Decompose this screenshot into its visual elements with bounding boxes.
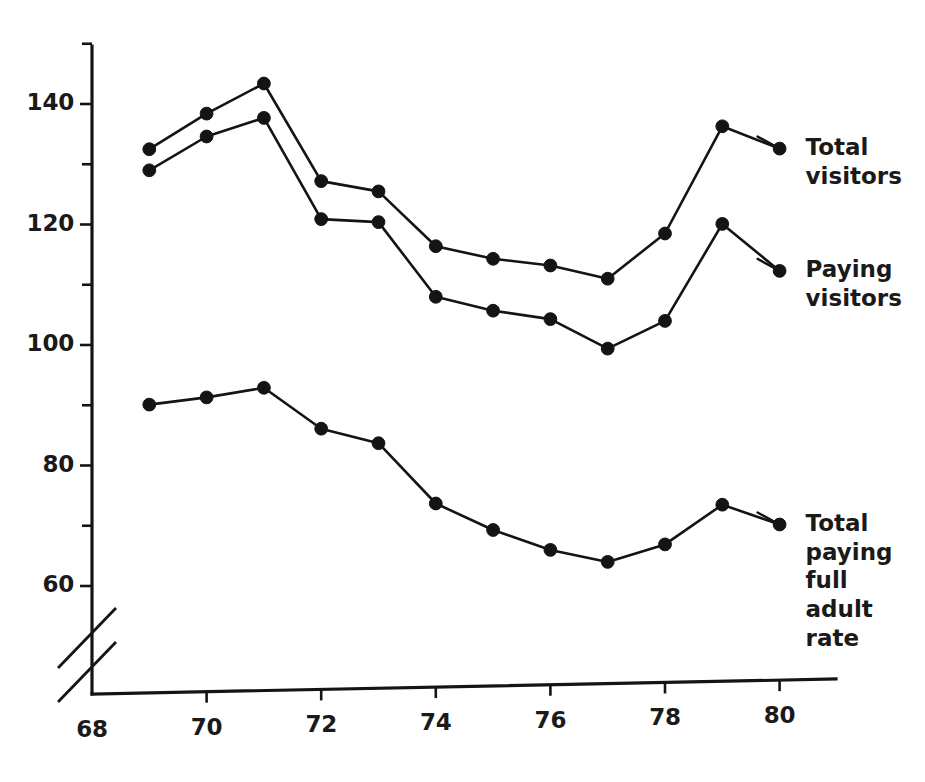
chart-container: 6080100120140 68707274767880 Total visit… — [0, 0, 925, 782]
data-point — [544, 313, 557, 326]
data-point — [544, 544, 557, 557]
series-label-leaders — [758, 137, 780, 525]
x-axis-label-72: 72 — [281, 711, 361, 737]
data-point — [487, 524, 500, 537]
data-point — [429, 240, 442, 253]
data-point — [315, 175, 328, 188]
data-point — [601, 556, 614, 569]
chart-plot-area — [0, 0, 925, 782]
y-axis-break-symbol — [58, 608, 116, 702]
data-series-group — [143, 77, 786, 568]
series-line-2 — [149, 118, 779, 349]
y-axis-label-140: 140 — [27, 89, 74, 115]
y-axis-label-120: 120 — [27, 210, 74, 236]
data-point — [544, 259, 557, 272]
data-point — [372, 185, 385, 198]
y-axis-label-60: 60 — [42, 571, 74, 597]
data-point — [372, 437, 385, 450]
axis-break-slash-1 — [58, 608, 116, 668]
x-axis-label-80: 80 — [740, 702, 820, 728]
data-point — [143, 164, 156, 177]
series-2 — [143, 112, 786, 356]
series-label-1: Total visitors — [806, 133, 902, 191]
series-line-3 — [149, 388, 779, 562]
x-axis-label-78: 78 — [625, 704, 705, 730]
series-label-3: Total paying full adult rate — [806, 509, 893, 654]
data-point — [659, 227, 672, 240]
data-point — [200, 391, 213, 404]
data-point — [601, 342, 614, 355]
axes-group — [80, 44, 836, 703]
data-point — [716, 498, 729, 511]
data-point — [315, 213, 328, 226]
data-point — [716, 218, 729, 231]
x-axis-label-70: 70 — [167, 714, 247, 740]
data-point — [601, 272, 614, 285]
series-3 — [143, 381, 786, 568]
data-point — [258, 112, 271, 125]
data-point — [429, 497, 442, 510]
data-point — [200, 130, 213, 143]
y-axis-label-100: 100 — [27, 330, 74, 356]
x-axis-label-68: 68 — [52, 716, 132, 742]
data-point — [429, 290, 442, 303]
data-point — [659, 315, 672, 328]
x-axis-label-76: 76 — [510, 707, 590, 733]
series-line-1 — [149, 84, 779, 279]
y-axis-label-80: 80 — [42, 451, 74, 477]
data-point — [143, 398, 156, 411]
series-1 — [143, 77, 786, 285]
data-point — [716, 120, 729, 133]
data-point — [659, 538, 672, 551]
x-axis-line — [92, 679, 836, 694]
data-point — [258, 381, 271, 394]
data-point — [487, 304, 500, 317]
data-point — [487, 252, 500, 265]
data-point — [200, 107, 213, 120]
data-point — [258, 77, 271, 90]
data-point — [315, 422, 328, 435]
data-point — [372, 216, 385, 229]
data-point — [143, 143, 156, 156]
series-label-2: Paying visitors — [806, 255, 902, 313]
x-axis-label-74: 74 — [396, 709, 476, 735]
